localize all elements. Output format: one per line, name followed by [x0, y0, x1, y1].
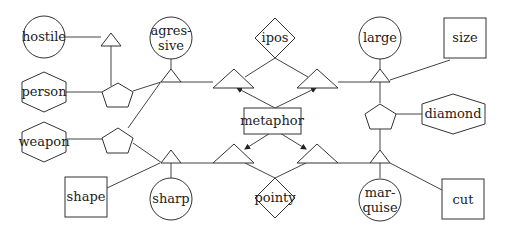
node-pointy: pointy: [254, 178, 296, 218]
svg-text:ipos: ipos: [262, 30, 289, 45]
node-diamond: diamond: [422, 94, 485, 134]
svg-text:large: large: [363, 30, 397, 45]
node-ipos: ipos: [255, 18, 295, 58]
node-size: size: [444, 18, 486, 58]
relation-triangles: [101, 33, 390, 163]
pentagon-diamond: [365, 104, 396, 129]
triangle-hostile: [101, 33, 121, 46]
svg-text:mar-: mar-: [365, 185, 396, 200]
triangle-large: [370, 69, 390, 82]
node-shape: shape: [65, 177, 107, 217]
triangle-marquise: [370, 150, 390, 163]
svg-text:quise: quise: [362, 200, 398, 215]
pentagon-person: [102, 83, 133, 107]
svg-text:sive: sive: [158, 38, 184, 53]
node-cut: cut: [442, 179, 484, 219]
triangle-ipos-right: [297, 69, 338, 88]
svg-text:cut: cut: [453, 192, 475, 207]
svg-text:size: size: [452, 30, 478, 45]
svg-text:shape: shape: [67, 189, 106, 204]
svg-text:weapon: weapon: [18, 134, 70, 149]
svg-text:person: person: [21, 84, 67, 99]
svg-text:metaphor: metaphor: [240, 113, 305, 128]
semantic-network-diagram: hostile agres- sive sharp large mar- qui…: [0, 0, 508, 232]
triangle-sharp: [161, 150, 181, 163]
triangle-agressive: [161, 69, 181, 82]
node-hostile: hostile: [22, 16, 66, 58]
node-sharp: sharp: [150, 178, 192, 220]
triangle-ipos-left: [213, 69, 254, 88]
node-weapon: weapon: [18, 122, 70, 162]
node-agressive: agres- sive: [150, 17, 192, 59]
svg-text:pointy: pointy: [254, 190, 296, 205]
node-metaphor: metaphor: [240, 108, 305, 134]
node-person: person: [21, 72, 67, 112]
svg-text:agres-: agres-: [150, 23, 191, 38]
pentagon-weapon: [102, 128, 133, 153]
svg-text:diamond: diamond: [424, 106, 481, 121]
node-large: large: [359, 17, 401, 59]
node-marquise: mar- quise: [359, 179, 401, 221]
svg-text:hostile: hostile: [22, 29, 66, 44]
svg-text:sharp: sharp: [152, 191, 189, 206]
